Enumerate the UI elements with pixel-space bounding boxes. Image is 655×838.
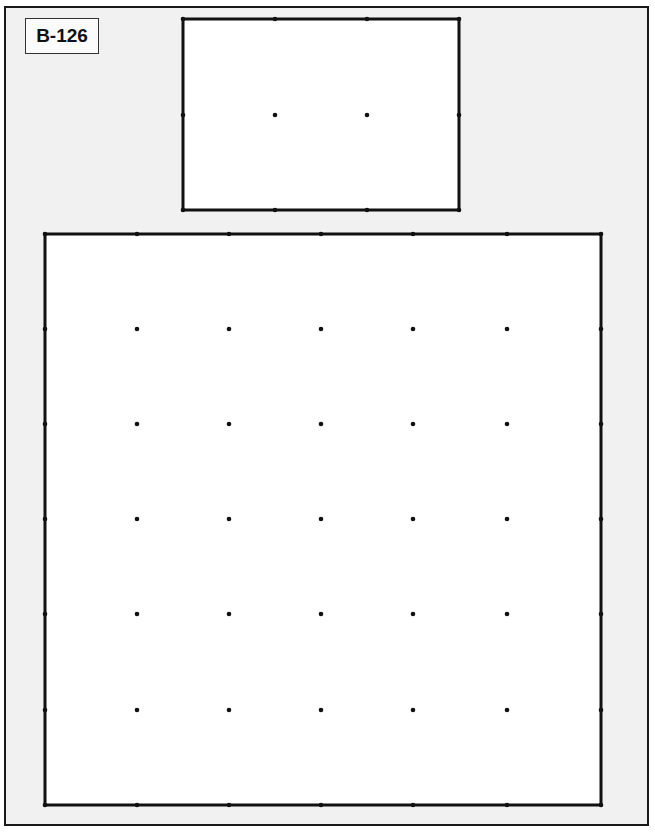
peg-dot bbox=[365, 208, 370, 213]
peg-dot bbox=[505, 422, 510, 427]
peg-dot bbox=[319, 422, 324, 427]
peg-dot bbox=[319, 612, 324, 617]
large-geoboard bbox=[43, 232, 604, 808]
peg-dot bbox=[319, 708, 324, 713]
peg-dot bbox=[505, 708, 510, 713]
peg-dot bbox=[599, 708, 604, 713]
peg-dot bbox=[273, 113, 278, 118]
peg-dot bbox=[365, 113, 370, 118]
peg-dot bbox=[411, 422, 416, 427]
peg-dot bbox=[135, 803, 140, 808]
peg-dot bbox=[505, 517, 510, 522]
peg-dot bbox=[135, 232, 140, 237]
peg-dot bbox=[273, 17, 278, 22]
peg-dot bbox=[319, 517, 324, 522]
peg-dot bbox=[43, 422, 48, 427]
peg-dot bbox=[43, 708, 48, 713]
peg-dot bbox=[227, 612, 232, 617]
small-geoboard-border bbox=[183, 19, 459, 210]
peg-dot bbox=[43, 327, 48, 332]
peg-dot bbox=[43, 517, 48, 522]
peg-dot bbox=[411, 803, 416, 808]
peg-dot bbox=[181, 208, 186, 213]
peg-dot bbox=[135, 327, 140, 332]
peg-dot bbox=[505, 232, 510, 237]
peg-dot bbox=[599, 612, 604, 617]
peg-dot bbox=[135, 708, 140, 713]
peg-dot bbox=[319, 803, 324, 808]
peg-dot bbox=[457, 113, 462, 118]
peg-dot bbox=[43, 612, 48, 617]
peg-dot bbox=[319, 232, 324, 237]
peg-dot bbox=[599, 232, 604, 237]
peg-dot bbox=[273, 208, 278, 213]
peg-dot bbox=[505, 803, 510, 808]
geoboards bbox=[0, 0, 655, 838]
peg-dot bbox=[599, 803, 604, 808]
peg-dot bbox=[505, 612, 510, 617]
peg-dot bbox=[227, 422, 232, 427]
peg-dot bbox=[505, 327, 510, 332]
peg-dot bbox=[411, 517, 416, 522]
peg-dot bbox=[227, 517, 232, 522]
peg-dot bbox=[135, 517, 140, 522]
peg-dot bbox=[227, 232, 232, 237]
peg-dot bbox=[457, 17, 462, 22]
peg-dot bbox=[135, 612, 140, 617]
peg-dot bbox=[599, 517, 604, 522]
peg-dot bbox=[181, 113, 186, 118]
peg-dot bbox=[365, 17, 370, 22]
peg-dot bbox=[599, 327, 604, 332]
peg-dot bbox=[457, 208, 462, 213]
peg-dot bbox=[411, 612, 416, 617]
peg-dot bbox=[43, 803, 48, 808]
peg-dot bbox=[319, 327, 324, 332]
peg-dot bbox=[411, 327, 416, 332]
peg-dot bbox=[227, 327, 232, 332]
peg-dot bbox=[411, 708, 416, 713]
small-geoboard bbox=[181, 17, 462, 213]
peg-dot bbox=[181, 17, 186, 22]
peg-dot bbox=[227, 803, 232, 808]
peg-dot bbox=[411, 232, 416, 237]
peg-dot bbox=[43, 232, 48, 237]
peg-dot bbox=[599, 422, 604, 427]
peg-dot bbox=[227, 708, 232, 713]
peg-dot bbox=[135, 422, 140, 427]
